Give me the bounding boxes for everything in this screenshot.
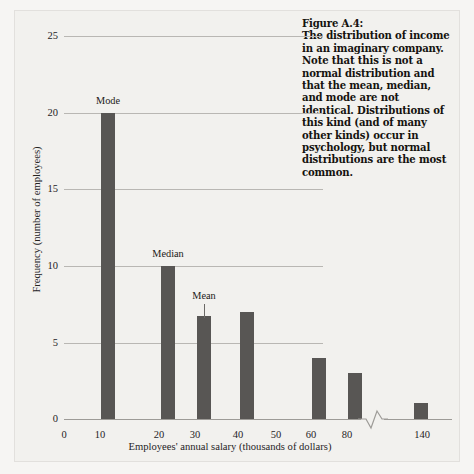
annotation-mean: Mean [178,290,230,301]
bar-140 [414,403,428,419]
xtick-0: 0 [44,424,84,442]
xtick-label-40: 40 [233,429,244,440]
ytick-25: 25 [22,30,58,42]
xtick-10: 10 [80,424,120,442]
xtick-label-20: 20 [154,429,165,440]
bar-30 [197,316,211,419]
ytick-label-0: 0 [24,413,58,424]
xtick-40: 40 [218,424,258,442]
x-axis-line-right [384,419,452,420]
bar-60 [312,358,326,419]
xtick-label-140: 140 [414,429,430,440]
bar-40 [240,312,254,419]
xtick-label-10: 10 [95,429,106,440]
bar-10 [101,113,115,419]
xtick-label-50: 50 [271,429,282,440]
xtick-label-30: 30 [190,429,201,440]
gridline-25 [64,36,323,37]
xtick-label-0: 0 [61,429,66,440]
xtick-50: 50 [256,424,296,442]
xtick-30: 30 [175,424,215,442]
xtick-80: 80 [327,424,367,442]
x-axis-title: Employees' annual salary (thousands of d… [60,441,400,452]
bar-20 [161,266,175,419]
annotation-mean-leader [204,304,205,318]
y-axis-title: Frequency (number of employees) [31,100,42,340]
figure-page: Figure A.4: The distribution of income i… [0,0,474,474]
ytick-label-25: 25 [24,30,58,41]
annotation-mode: Mode [82,95,134,106]
xtick-140: 140 [402,424,442,442]
histogram-plot: 25 20 15 10 5 0 Frequency (number of emp… [0,0,474,474]
xtick-label-80: 80 [342,429,353,440]
xtick-20: 20 [139,424,179,442]
xtick-label-60: 60 [306,429,317,440]
x-axis-line-left [64,419,361,420]
xtick-60: 60 [291,424,331,442]
annotation-median: Median [138,248,198,259]
